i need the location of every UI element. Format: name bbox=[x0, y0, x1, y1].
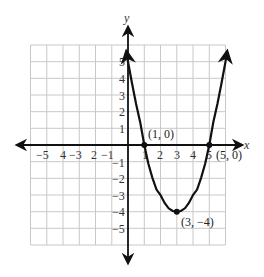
svg-text:−1: −1 bbox=[112, 156, 125, 170]
svg-text:5: 5 bbox=[119, 55, 125, 69]
vertex-label: (3, −4) bbox=[181, 215, 214, 229]
svg-text:−3: −3 bbox=[112, 189, 125, 203]
svg-text:4: 4 bbox=[190, 148, 196, 162]
point-1-0 bbox=[141, 142, 147, 148]
svg-text:2: 2 bbox=[91, 148, 97, 162]
parabola-chart: x y −5 4 −3 2 −1 1 2 3 4 5 5 4 3 2 1 −1 … bbox=[0, 0, 264, 277]
svg-text:4: 4 bbox=[119, 72, 125, 86]
svg-text:−5: −5 bbox=[112, 222, 125, 236]
point-1-0-label: (1, 0) bbox=[148, 127, 174, 141]
svg-text:−5: −5 bbox=[36, 148, 49, 162]
vertex-point bbox=[174, 209, 180, 215]
y-axis-label: y bbox=[123, 11, 130, 25]
svg-text:−4: −4 bbox=[112, 205, 125, 219]
point-5-0 bbox=[206, 142, 212, 148]
svg-text:3: 3 bbox=[174, 148, 180, 162]
point-5-0-label: (5, 0) bbox=[216, 148, 242, 162]
svg-text:−2: −2 bbox=[112, 172, 125, 186]
svg-text:−3: −3 bbox=[69, 148, 82, 162]
svg-text:4: 4 bbox=[60, 148, 66, 162]
svg-text:2: 2 bbox=[157, 148, 163, 162]
svg-text:1: 1 bbox=[119, 122, 125, 136]
svg-text:2: 2 bbox=[119, 105, 125, 119]
svg-text:3: 3 bbox=[119, 89, 125, 103]
x-axis-label: x bbox=[243, 138, 250, 152]
